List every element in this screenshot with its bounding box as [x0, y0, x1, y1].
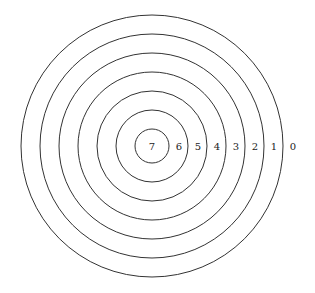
ring-label-1: 1	[271, 141, 277, 152]
ring-label-7: 7	[149, 141, 155, 152]
ring-label-6: 6	[176, 141, 182, 152]
ring-label-5: 5	[195, 141, 201, 152]
concentric-circles-diagram: 76543210	[0, 0, 315, 293]
ring-label-4: 4	[214, 141, 220, 152]
ring-label-0: 0	[290, 141, 296, 152]
ring-label-3: 3	[233, 141, 239, 152]
ring-label-2: 2	[252, 141, 258, 152]
